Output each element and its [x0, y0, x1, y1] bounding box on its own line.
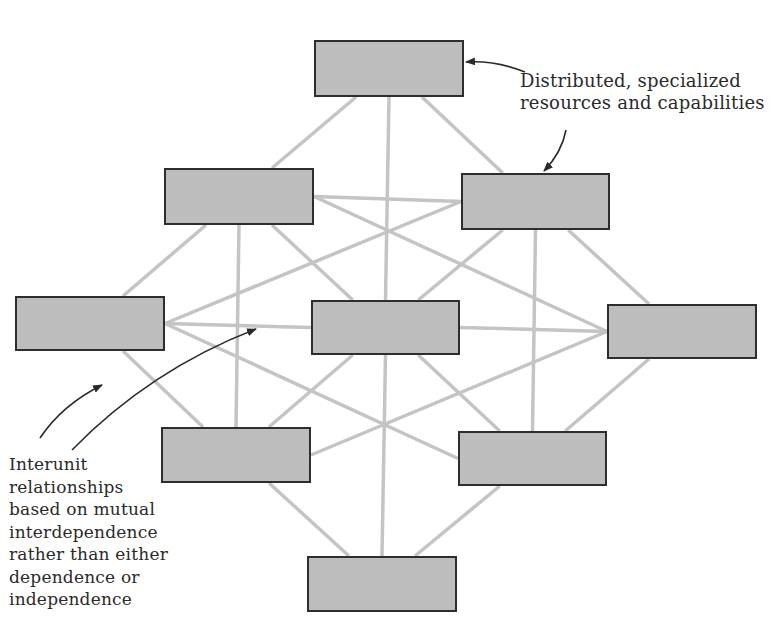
annotation-line: interdependence	[9, 521, 168, 544]
unit-box-lower-left	[161, 427, 311, 483]
annotation-line: independence	[9, 588, 168, 611]
unit-box-left	[15, 296, 165, 351]
link-upper-right-center	[418, 230, 502, 300]
annotation-line: Distributed, specialized	[520, 70, 765, 92]
link-center-bottom	[382, 355, 386, 556]
link-top-upper-left	[272, 97, 356, 168]
annotation-line: rather than either	[9, 543, 168, 566]
link-lower-left-bottom	[269, 483, 349, 556]
link-center-right	[460, 328, 607, 332]
link-left-center	[165, 324, 311, 328]
unit-box-right	[607, 304, 757, 359]
unit-box-center	[311, 300, 460, 355]
unit-box-bottom	[307, 556, 457, 612]
link-upper-left-left	[123, 225, 206, 296]
link-lower-right-bottom	[415, 486, 500, 556]
annotation-line: based on mutual	[9, 498, 168, 521]
link-upper-left-upper-right	[314, 197, 461, 202]
link-top-upper-right	[422, 97, 503, 173]
unit-box-top	[314, 40, 464, 97]
link-right-lower-right	[565, 359, 649, 431]
annotation-line: relationships	[9, 476, 168, 499]
annotation-line: resources and capabilities	[520, 92, 765, 114]
relationships-annotation: Interunit relationships based on mutual …	[9, 453, 168, 611]
link-left-lower-left	[123, 351, 203, 427]
resources-annotation: Distributed, specialized resources and c…	[520, 70, 765, 114]
unit-box-lower-right	[458, 431, 607, 486]
unit-box-upper-right	[461, 173, 610, 230]
arrow-to-top-node	[466, 62, 525, 72]
arrow-to-upper-right-node	[544, 130, 566, 171]
unit-box-upper-left	[164, 168, 314, 225]
annotation-line: dependence or	[9, 566, 168, 589]
link-center-lower-left	[269, 355, 353, 427]
annotation-line: Interunit	[9, 453, 168, 476]
link-upper-right-right	[568, 230, 649, 304]
